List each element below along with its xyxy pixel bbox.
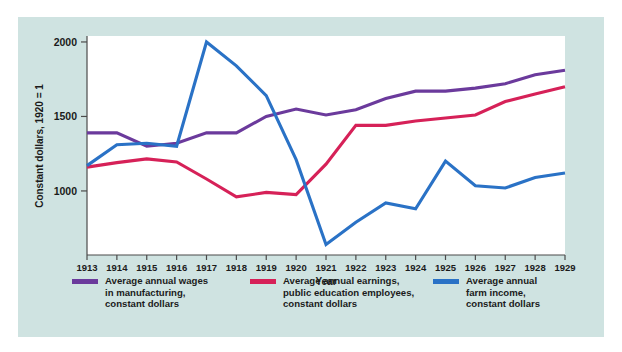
x-tick-label: 1914	[106, 262, 128, 273]
x-tick-label: 1926	[465, 262, 486, 273]
x-axis-ticks: 1913191419151916191719181919192019211922…	[76, 255, 575, 273]
y-tick-label: 1500	[54, 110, 78, 122]
x-tick-label: 1925	[435, 262, 457, 273]
x-tick-label: 1922	[345, 262, 366, 273]
y-tick-label: 2000	[54, 36, 78, 48]
chart-legend: Average annual wages in manufacturing, c…	[18, 275, 604, 331]
y-axis-label: Constant dollars, 1920 = 1	[34, 84, 45, 208]
legend-entry-wages: Average annual wages in manufacturing, c…	[72, 275, 208, 310]
x-tick-label: 1920	[286, 262, 307, 273]
x-tick-label: 1918	[226, 262, 247, 273]
x-tick-label: 1923	[375, 262, 396, 273]
y-axis-ticks: 100015002000	[54, 36, 87, 197]
series-line-1	[87, 87, 565, 197]
x-tick-label: 1927	[495, 262, 516, 273]
legend-label-wages: Average annual wages in manufacturing, c…	[105, 275, 208, 310]
legend-label-education: Average annual earnings, public educatio…	[283, 275, 414, 310]
x-tick-label: 1928	[525, 262, 546, 273]
legend-swatch-farm	[433, 279, 459, 284]
legend-entry-farm: Average annual farm income, constant dol…	[433, 275, 540, 310]
legend-label-farm: Average annual farm income, constant dol…	[466, 275, 540, 310]
x-tick-label: 1929	[554, 262, 575, 273]
legend-swatch-wages	[72, 279, 98, 284]
x-tick-label: 1916	[166, 262, 187, 273]
series-line-2	[87, 42, 565, 245]
data-series-group	[87, 42, 565, 245]
y-tick-label: 1000	[54, 185, 78, 197]
x-tick-label: 1915	[136, 262, 158, 273]
legend-swatch-education	[250, 279, 276, 284]
x-tick-label: 1921	[315, 262, 337, 273]
legend-entry-education: Average annual earnings, public educatio…	[250, 275, 414, 310]
x-tick-label: 1913	[76, 262, 97, 273]
x-tick-label: 1924	[405, 262, 427, 273]
x-tick-label: 1917	[196, 262, 217, 273]
chart-figure: 100015002000 191319141915191619171918191…	[18, 17, 604, 337]
x-tick-label: 1919	[256, 262, 277, 273]
